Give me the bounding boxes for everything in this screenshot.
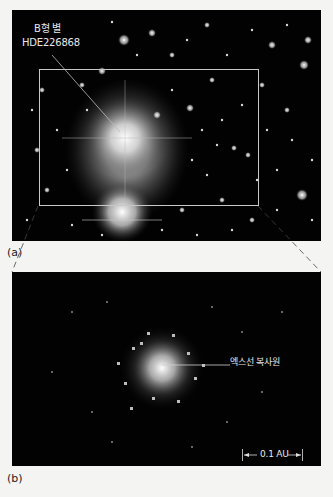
xray-source-image bbox=[12, 272, 321, 466]
xray-image-panel: 엑스선 복사원 0.1 AU bbox=[12, 272, 321, 466]
star-name-label: HDE226868 bbox=[22, 38, 80, 48]
panel-b-caption: (b) bbox=[7, 473, 23, 484]
xray-source-label: 엑스선 복사원 bbox=[230, 358, 279, 367]
optical-image-panel: B형 별 HDE226868 bbox=[12, 10, 321, 241]
star-type-label: B형 별 bbox=[34, 24, 61, 34]
panel-a-caption: (a) bbox=[7, 247, 22, 258]
scale-bar-label: 0.1 AU bbox=[260, 450, 289, 459]
